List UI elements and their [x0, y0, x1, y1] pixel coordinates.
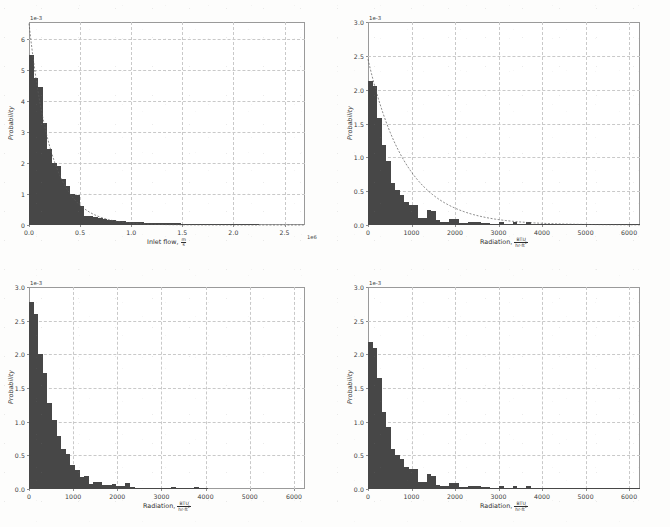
x-tick-label: 1000: [65, 493, 81, 500]
x-tickmark: [455, 489, 456, 491]
y-tickmark: [27, 132, 29, 133]
x-tick-label: 3000: [153, 493, 169, 500]
y-axis-label: Probability: [7, 105, 15, 139]
y-tickmark: [366, 287, 368, 288]
x-tickmark: [73, 489, 74, 491]
histogram-bar: [635, 488, 640, 489]
plot-radiation-histogram-bottom-right: 01000200030004000500060000.00.51.01.52.0…: [368, 287, 640, 489]
x-tickmark: [629, 489, 630, 491]
x-tick-label: 4000: [534, 229, 550, 236]
x-tick-label: 4000: [198, 493, 214, 500]
x-tickmark: [206, 489, 207, 491]
histogram-bars: [29, 287, 305, 489]
x-axis-label: Radiation,BTUhr·ft2: [480, 501, 528, 512]
y-tick-label: 0.0: [344, 222, 364, 229]
panel-top-right: 01000200030004000500060000.00.51.01.52.0…: [335, 0, 670, 264]
histogram-bars: [368, 22, 640, 225]
y-tickmark: [366, 56, 368, 57]
x-tickmark: [542, 225, 543, 227]
y-tick-label: 0.5: [5, 452, 25, 459]
y-tickmark: [366, 455, 368, 456]
y-tickmark: [27, 39, 29, 40]
y-tick-label: 1: [5, 191, 25, 198]
y-axis-label: Probability: [346, 105, 354, 139]
figure-page: 0.00.51.01.52.02.501234561e-31e6Inlet fl…: [0, 0, 670, 527]
histogram-bars: [368, 287, 640, 489]
y-tickmark: [27, 321, 29, 322]
y-axis-offset-text: 1e-3: [369, 280, 381, 286]
y-tickmark: [27, 194, 29, 195]
y-tick-label: 2.0: [5, 351, 25, 358]
y-tick-label: 2.5: [344, 317, 364, 324]
unit-fraction-radiation: BTUhr·ft2: [514, 238, 528, 249]
y-tick-label: 0: [5, 222, 25, 229]
x-tick-label: 1000: [403, 229, 419, 236]
y-tick-label: 3.0: [5, 284, 25, 291]
y-tick-label: 3.0: [344, 284, 364, 291]
panel-bottom-right: 01000200030004000500060000.00.51.01.52.0…: [335, 264, 670, 527]
y-tick-label: 0.5: [344, 452, 364, 459]
y-tickmark: [27, 388, 29, 389]
y-tick-label: 0.0: [344, 486, 364, 493]
x-tickmark: [29, 225, 30, 227]
y-tickmark: [27, 489, 29, 490]
y-tickmark: [27, 287, 29, 288]
y-tickmark: [27, 70, 29, 71]
x-tickmark: [294, 489, 295, 491]
y-tickmark: [366, 489, 368, 490]
panel-bottom-left: 01000200030004000500060000.00.51.01.52.0…: [0, 264, 335, 527]
x-tickmark: [412, 489, 413, 491]
x-tickmark: [368, 489, 369, 491]
x-tickmark: [161, 489, 162, 491]
x-tick-label: 0.5: [75, 229, 85, 236]
x-axis-label-text: Radiation,: [480, 238, 512, 246]
unit-fraction-radiation: BTUhr·ft2: [514, 502, 528, 513]
x-tick-label: 3000: [490, 229, 506, 236]
plot-radiation-histogram-top-right: 01000200030004000500060000.00.51.01.52.0…: [368, 22, 640, 225]
x-tickmark: [499, 489, 500, 491]
x-tickmark: [412, 225, 413, 227]
x-axis-label-text: Radiation,: [480, 502, 512, 510]
y-tickmark: [27, 163, 29, 164]
unit-fraction-radiation: BTUhr·ft2: [177, 502, 191, 513]
x-tickmark: [131, 225, 132, 227]
x-axis-label-text: Inlet flow,: [147, 238, 178, 246]
x-tick-label: 1000: [403, 493, 419, 500]
x-tick-label: 2.5: [279, 229, 289, 236]
x-tick-label: 6000: [621, 493, 637, 500]
y-tickmark: [27, 225, 29, 226]
x-tickmark: [368, 225, 369, 227]
x-tickmark: [80, 225, 81, 227]
x-tickmark: [182, 225, 183, 227]
y-tick-label: 2.5: [5, 317, 25, 324]
y-tickmark: [366, 388, 368, 389]
y-tick-label: 0.5: [344, 188, 364, 195]
plot-radiation-histogram-bottom-left: 01000200030004000500060000.00.51.01.52.0…: [29, 287, 305, 489]
y-tick-label: 1.0: [5, 418, 25, 425]
y-axis-label: Probability: [7, 370, 15, 404]
histogram-bars: [29, 22, 305, 225]
x-tick-label: 5000: [578, 493, 594, 500]
x-tick-label: 4000: [534, 493, 550, 500]
y-tick-label: 1.0: [344, 418, 364, 425]
y-tick-label: 0.0: [5, 486, 25, 493]
histogram-bar: [635, 224, 640, 225]
x-tickmark: [29, 489, 30, 491]
y-tickmark: [27, 101, 29, 102]
y-tick-label: 3.0: [344, 19, 364, 26]
x-axis-offset-text: 1e6: [307, 234, 317, 240]
panel-grid: 0.00.51.01.52.02.501234561e-31e6Inlet fl…: [0, 0, 670, 527]
x-tick-label: 1.0: [126, 229, 136, 236]
x-axis-label: Radiation,BTUhr·ft2: [143, 501, 191, 512]
x-tickmark: [285, 225, 286, 227]
y-tickmark: [366, 225, 368, 226]
x-tick-label: 2.0: [228, 229, 238, 236]
histogram-bar: [254, 224, 259, 225]
y-tickmark: [366, 321, 368, 322]
y-tick-label: 4: [5, 98, 25, 105]
y-axis-offset-text: 1e-3: [369, 15, 381, 21]
x-tickmark: [542, 489, 543, 491]
x-tick-label: 2000: [109, 493, 125, 500]
x-tick-label: 5000: [578, 229, 594, 236]
x-tick-label: 0: [27, 493, 31, 500]
